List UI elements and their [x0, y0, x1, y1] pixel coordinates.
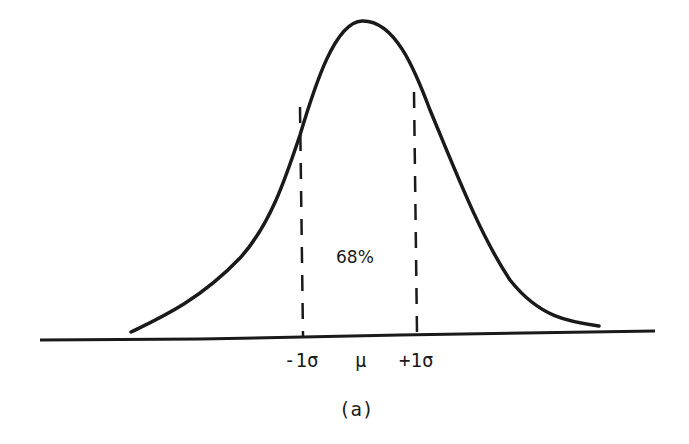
normal-curve-diagram: [0, 0, 689, 444]
minus-sigma-label: -1σ: [284, 349, 318, 371]
bell-curve: [131, 21, 599, 332]
area-percentage-label: 68%: [336, 247, 374, 267]
plus-sigma-label: +1σ: [399, 349, 433, 371]
plus-sigma-dashed-line: [414, 92, 417, 333]
figure-caption: (a): [339, 398, 373, 420]
minus-sigma-dashed-line: [300, 107, 303, 336]
mean-label: μ: [355, 349, 366, 371]
